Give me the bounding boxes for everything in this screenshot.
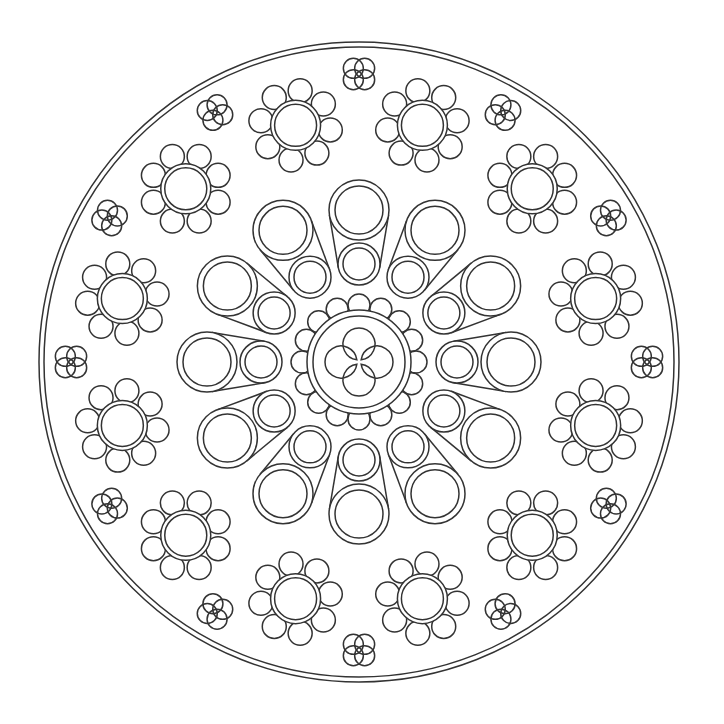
clover-lobe xyxy=(343,58,363,78)
flower-petal xyxy=(145,282,169,306)
clover-lobe xyxy=(355,634,375,654)
flower-petal xyxy=(115,379,139,403)
flower xyxy=(376,552,469,645)
flower-ring-outer xyxy=(271,100,321,150)
clover-lobe xyxy=(343,70,363,90)
flower-petal xyxy=(318,118,342,142)
flower-petal xyxy=(588,448,612,472)
flower xyxy=(249,79,342,172)
flower-petal xyxy=(618,409,642,433)
tube xyxy=(329,439,389,544)
tube-small-outer xyxy=(338,439,380,481)
flower-petal xyxy=(288,621,312,645)
clover xyxy=(631,346,662,377)
tube-small-outer xyxy=(338,243,380,285)
flower-petal xyxy=(249,109,273,133)
clover xyxy=(591,200,626,235)
flower-petal xyxy=(249,591,273,615)
clover xyxy=(343,634,374,665)
mandala-canvas xyxy=(0,0,724,724)
tube xyxy=(329,180,389,285)
tube-large-outer xyxy=(329,180,389,240)
tube-small-outer xyxy=(253,292,295,334)
flower-petal xyxy=(579,379,603,403)
tube-large-outer xyxy=(405,464,465,524)
tube xyxy=(423,390,521,468)
clover-lobe xyxy=(67,358,87,378)
flower xyxy=(76,379,169,472)
flower-petal xyxy=(115,321,139,345)
flower-petal xyxy=(406,79,430,103)
tube xyxy=(197,390,295,468)
flower-petal xyxy=(145,418,169,442)
flower-petal xyxy=(549,282,573,306)
flower xyxy=(76,252,169,345)
clover xyxy=(55,346,86,377)
clover-lobe xyxy=(355,58,375,78)
flower-petal xyxy=(579,321,603,345)
tube-small-outer xyxy=(289,426,331,468)
tube xyxy=(436,332,541,392)
clover-lobe xyxy=(343,646,363,666)
flower-petal xyxy=(588,252,612,276)
flower-petal xyxy=(279,552,303,576)
flower xyxy=(549,379,642,472)
flower-ring-outer xyxy=(397,574,447,624)
tube xyxy=(253,426,331,524)
flower-petal xyxy=(106,448,130,472)
tube xyxy=(177,332,282,392)
clover xyxy=(92,200,127,235)
flower xyxy=(488,491,577,580)
tube-small-outer xyxy=(289,256,331,298)
flower-petal xyxy=(376,582,400,606)
clover-lobe xyxy=(643,346,663,366)
flower-petal xyxy=(406,621,430,645)
flower-petal xyxy=(549,418,573,442)
flower xyxy=(549,252,642,345)
tube-large-outer xyxy=(177,332,237,392)
flower xyxy=(141,144,230,233)
flower xyxy=(488,144,577,233)
clover-lobe xyxy=(631,358,651,378)
flower-ring-outer xyxy=(571,400,621,450)
flower-ring-outer xyxy=(161,164,211,214)
tube xyxy=(423,256,521,334)
clover-lobe xyxy=(355,70,375,90)
tube-large-outer xyxy=(253,200,313,260)
central-rosette xyxy=(291,294,427,430)
rosette-ring-outer xyxy=(307,310,411,414)
clover-lobe xyxy=(631,346,651,366)
clover-lobe xyxy=(55,346,75,366)
tube-small-outer xyxy=(436,341,478,383)
flower xyxy=(141,491,230,580)
clover xyxy=(343,58,374,89)
clover-lobe xyxy=(55,358,75,378)
mandala-artwork xyxy=(0,0,724,724)
flower-ring-outer xyxy=(507,164,557,214)
flower-petal xyxy=(279,148,303,172)
tube-large-outer xyxy=(405,200,465,260)
clover xyxy=(485,594,520,629)
tube-small-outer xyxy=(253,390,295,432)
tube-large-outer xyxy=(461,408,521,468)
flower-petal xyxy=(445,109,469,133)
flower-ring-outer xyxy=(271,574,321,624)
tube-large-outer xyxy=(329,484,389,544)
flower-ring-outer xyxy=(397,100,447,150)
flower-ring-outer xyxy=(97,400,147,450)
tube xyxy=(197,256,295,334)
clover xyxy=(197,95,232,130)
clover-lobe xyxy=(643,358,663,378)
tube-small-outer xyxy=(387,256,429,298)
clover-lobe xyxy=(355,646,375,666)
tube-large-outer xyxy=(197,408,257,468)
tube-small-outer xyxy=(387,426,429,468)
tube-large-outer xyxy=(253,464,313,524)
flower-petal xyxy=(445,591,469,615)
flower-ring-outer xyxy=(571,274,621,324)
flower-petal xyxy=(288,79,312,103)
flower-petal xyxy=(76,409,100,433)
flower-petal xyxy=(318,582,342,606)
flower-petal xyxy=(106,252,130,276)
flower-ring-outer xyxy=(161,510,211,560)
